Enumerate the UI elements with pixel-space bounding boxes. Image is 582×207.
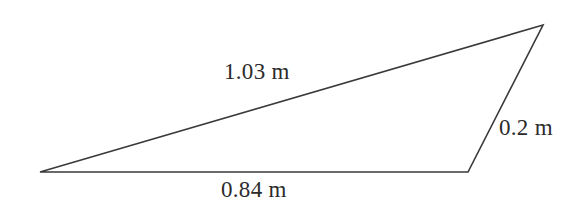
triangle-figure: 1.03 m 0.84 m 0.2 m [0, 0, 582, 207]
label-right-side: 0.2 m [499, 116, 553, 139]
label-base: 0.84 m [221, 178, 287, 201]
label-hypotenuse: 1.03 m [224, 60, 290, 83]
triangle-outline [40, 25, 543, 172]
triangle-shape [0, 0, 582, 207]
